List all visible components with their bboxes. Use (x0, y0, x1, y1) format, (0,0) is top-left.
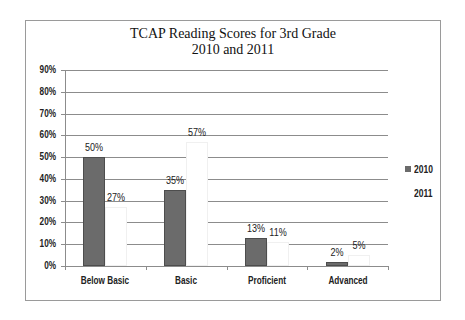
x-tick (146, 266, 147, 270)
data-label: 27% (104, 191, 129, 203)
y-tick-label: 30% (30, 195, 56, 207)
y-tick-label: 20% (30, 216, 56, 228)
legend-item-2011: 2011 (405, 187, 436, 199)
legend-swatch (405, 190, 411, 196)
y-tick (61, 92, 65, 93)
y-tick (61, 157, 65, 158)
y-tick (61, 114, 65, 115)
gridline (65, 114, 388, 115)
gridline (65, 135, 388, 136)
data-label: 50% (82, 141, 107, 153)
y-tick (61, 201, 65, 202)
bar-2010-proficient (245, 238, 267, 266)
y-tick-label: 50% (30, 151, 56, 163)
chart-subtitle: 2010 and 2011 (25, 42, 441, 58)
gridline (65, 179, 388, 180)
y-tick (61, 244, 65, 245)
chart-title: TCAP Reading Scores for 3rd Grade 2010 a… (25, 26, 441, 58)
y-tick-label: 70% (30, 108, 56, 120)
legend-item-2010: 2010 (405, 163, 436, 175)
legend-swatch (405, 166, 411, 172)
bar-2010-basic (164, 190, 186, 266)
x-tick (388, 266, 389, 270)
x-category-label: Proficient (234, 275, 300, 287)
y-tick-label: 90% (30, 64, 56, 76)
chart-title-line1: TCAP Reading Scores for 3rd Grade (25, 26, 441, 42)
y-tick-label: 10% (30, 238, 56, 250)
y-tick (61, 179, 65, 180)
data-label: 13% (244, 222, 269, 234)
y-tick (61, 70, 65, 71)
data-label: 5% (346, 239, 371, 251)
y-tick-label: 60% (30, 129, 56, 141)
y-tick-label: 40% (30, 173, 56, 185)
legend-label: 2010 (414, 164, 433, 175)
legend: 20102011 (405, 163, 436, 211)
y-tick-label: 80% (30, 86, 56, 98)
data-label: 35% (163, 174, 188, 186)
y-tick (61, 222, 65, 223)
y-tick (61, 135, 65, 136)
gridline (65, 157, 388, 158)
x-category-label: Basic (153, 275, 219, 287)
data-label: 11% (266, 226, 291, 238)
bar-2011-basic (186, 142, 208, 266)
x-category-label: Below Basic (73, 275, 139, 287)
gridline (65, 92, 388, 93)
bar-2010-advanced (326, 262, 348, 266)
y-axis (65, 70, 66, 266)
data-label: 2% (324, 246, 349, 258)
bar-2011-proficient (267, 242, 289, 266)
legend-label: 2011 (414, 188, 432, 199)
data-label: 57% (185, 126, 210, 138)
gridline (65, 70, 388, 71)
bar-2011-below-basic (105, 207, 127, 266)
x-tick (227, 266, 228, 270)
bar-2011-advanced (348, 255, 370, 266)
x-tick (65, 266, 66, 270)
x-category-label: Advanced (315, 275, 381, 287)
x-tick (307, 266, 308, 270)
bar-2010-below-basic (83, 157, 105, 266)
y-tick-label: 0% (30, 260, 56, 272)
